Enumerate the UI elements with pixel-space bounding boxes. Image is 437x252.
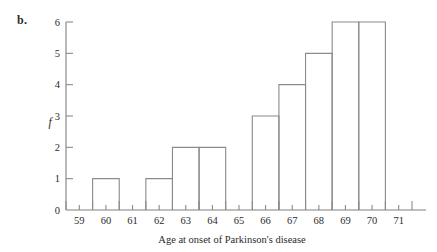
x-tick-label: 59 — [74, 215, 85, 226]
x-tick-label: 62 — [154, 215, 165, 226]
bars-group — [93, 22, 386, 210]
x-tick-marks — [66, 201, 412, 210]
histogram-chart: 59606162636465666768697071 0123456 f Age… — [0, 0, 437, 252]
x-tick-labels: 59606162636465666768697071 — [74, 215, 404, 226]
y-tick-label: 6 — [55, 17, 60, 28]
y-tick-label: 0 — [55, 205, 60, 216]
y-tick-labels: 0123456 — [55, 17, 61, 216]
x-tick-label: 68 — [314, 215, 325, 226]
y-tick-label: 1 — [55, 173, 60, 184]
y-axis-title: f — [48, 116, 53, 129]
histogram-bar — [279, 85, 306, 210]
x-tick-label: 63 — [181, 215, 192, 226]
axes-group — [66, 22, 426, 210]
y-tick-marks — [66, 22, 73, 179]
histogram-bar — [252, 116, 279, 210]
x-tick-label: 70 — [367, 215, 378, 226]
x-tick-label: 66 — [260, 215, 271, 226]
x-axis-title: Age at onset of Parkinson's disease — [158, 234, 306, 245]
histogram-bar — [306, 53, 333, 210]
y-tick-label: 5 — [55, 48, 60, 59]
x-tick-label: 67 — [287, 215, 298, 226]
y-tick-label: 4 — [55, 79, 61, 90]
panel-label: b. — [17, 13, 27, 28]
histogram-bar — [332, 22, 359, 210]
histogram-bar — [199, 147, 226, 210]
y-tick-label: 3 — [55, 111, 60, 122]
x-tick-label: 65 — [234, 215, 245, 226]
histogram-bar — [172, 147, 199, 210]
y-tick-label: 2 — [55, 142, 60, 153]
histogram-figure: b. 59606162636465666768697071 0123456 f … — [0, 0, 437, 252]
x-tick-label: 60 — [101, 215, 112, 226]
x-tick-label: 69 — [340, 215, 351, 226]
x-tick-label: 64 — [207, 215, 218, 226]
histogram-bar — [359, 22, 386, 210]
x-tick-label: 71 — [393, 215, 404, 226]
x-tick-label: 61 — [127, 215, 138, 226]
